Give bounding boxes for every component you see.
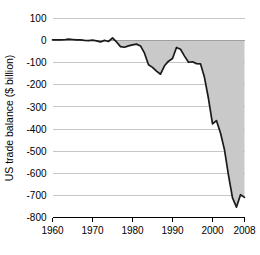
chart-container: 1000-100-200-300-400-500-600-700-800 196… — [0, 0, 260, 255]
x-tick-label: 2008 — [233, 225, 256, 236]
y-axis-title: US trade balance ($ billion) — [3, 55, 15, 182]
y-tick-label: -600 — [26, 168, 46, 179]
x-tick-label: 2000 — [201, 225, 224, 236]
y-tick-label: 100 — [30, 13, 47, 24]
y-tick-label: -400 — [26, 124, 46, 135]
y-tick-label: -200 — [26, 79, 46, 90]
x-axis-ticks: 196019701980199020002008 — [41, 218, 256, 236]
y-tick-label: -800 — [26, 212, 46, 223]
y-tick-label: -700 — [26, 190, 46, 201]
y-axis-ticks: 1000-100-200-300-400-500-600-700-800 — [26, 13, 46, 223]
y-tick-label: -100 — [26, 57, 46, 68]
y-tick-label: -300 — [26, 102, 46, 113]
x-tick-label: 1970 — [81, 225, 104, 236]
x-tick-label: 1980 — [121, 225, 144, 236]
trade-balance-area-chart: 1000-100-200-300-400-500-600-700-800 196… — [0, 0, 260, 255]
y-tick-label: -500 — [26, 146, 46, 157]
x-tick-label: 1960 — [41, 225, 64, 236]
y-tick-label: 0 — [41, 35, 47, 46]
x-tick-label: 1990 — [161, 225, 184, 236]
